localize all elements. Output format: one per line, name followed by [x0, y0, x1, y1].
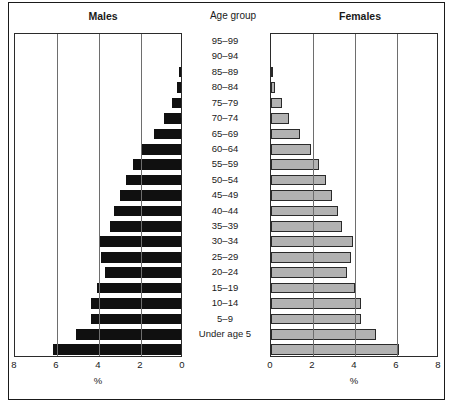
bar-row: [15, 96, 181, 111]
bar-females-5–9: [271, 329, 376, 340]
age-group-label: 95–99: [182, 33, 268, 48]
bar-row: [271, 142, 437, 157]
chart-titles: Males Age group Females: [8, 10, 445, 26]
bar-females-50–54: [271, 190, 332, 201]
age-group-label: 40–44: [182, 203, 268, 218]
bar-males-65–69: [141, 144, 181, 155]
bar-row: [15, 142, 181, 157]
bar-row: [271, 49, 437, 64]
bar-females-30–34: [271, 252, 351, 263]
bar-males-50–54: [120, 190, 181, 201]
age-group-label: 60–64: [182, 141, 268, 156]
bar-row: [271, 127, 437, 142]
age-group-label: 80–84: [182, 79, 268, 94]
age-group-label: 75–79: [182, 95, 268, 110]
population-pyramid-figure: Males Age group Females 95–9990–9485–898…: [0, 0, 452, 410]
axis-tick-0: 0: [267, 359, 272, 370]
bar-row: [271, 111, 437, 126]
bar-females-70–74: [271, 129, 300, 140]
bar-row: [15, 65, 181, 80]
bar-males-90–94: [179, 67, 181, 78]
bar-row: [15, 49, 181, 64]
gridline-4: [355, 34, 356, 356]
bar-females-40–44: [271, 221, 342, 232]
age-group-label: 35–39: [182, 218, 268, 233]
males-x-axis: 86420: [14, 359, 182, 373]
bar-males-55–59: [126, 175, 181, 186]
females-axis-unit-label: %: [270, 375, 438, 386]
bar-row: [271, 219, 437, 234]
bar-row: [271, 281, 437, 296]
gridline-6: [57, 34, 58, 356]
bar-row: [271, 234, 437, 249]
bar-females-65–69: [271, 144, 311, 155]
axis-tick-8: 8: [11, 359, 16, 370]
bar-row: [271, 342, 437, 357]
bar-row: [271, 173, 437, 188]
bar-row: [15, 342, 181, 357]
bar-row: [271, 265, 437, 280]
bar-row: [271, 80, 437, 95]
bar-males-15–19: [91, 298, 181, 309]
bar-row: [15, 312, 181, 327]
age-group-label: 10–14: [182, 295, 268, 310]
bar-row: [15, 219, 181, 234]
bar-row: [15, 127, 181, 142]
bar-row: [15, 80, 181, 95]
age-group-label: 85–89: [182, 64, 268, 79]
age-group-label: 30–34: [182, 233, 268, 248]
bar-males-80–84: [172, 98, 181, 109]
males-bar-rows: [15, 34, 181, 356]
bar-females-85–89: [271, 82, 275, 93]
females-bar-rows: [271, 34, 437, 356]
bar-row: [15, 157, 181, 172]
bar-males-75–79: [164, 113, 181, 124]
bar-row: [15, 204, 181, 219]
bar-males-10–14: [91, 314, 181, 325]
age-group-label: 90–94: [182, 48, 268, 63]
bar-females-10–14: [271, 314, 361, 325]
age-group-label: 65–69: [182, 126, 268, 141]
gridline-6: [397, 34, 398, 356]
bar-row: [15, 111, 181, 126]
bar-females-15–19: [271, 298, 361, 309]
bar-row: [271, 188, 437, 203]
bar-row: [271, 96, 437, 111]
bar-females-Under age 5: [271, 344, 399, 355]
age-group-label: 70–74: [182, 110, 268, 125]
bar-row-spacer: [271, 34, 437, 49]
bar-males-25–29: [105, 267, 181, 278]
bar-row: [271, 250, 437, 265]
gridline-2: [141, 34, 142, 356]
bar-row: [15, 281, 181, 296]
females-x-axis: 02468: [270, 359, 438, 373]
bar-males-20–24: [97, 283, 181, 294]
age-group-label: 50–54: [182, 172, 268, 187]
bar-row: [15, 173, 181, 188]
bar-females-90–94: [271, 67, 273, 78]
bar-row: [15, 250, 181, 265]
bar-males-40–44: [110, 221, 181, 232]
axis-tick-4: 4: [95, 359, 100, 370]
bar-row: [271, 157, 437, 172]
age-group-label: 25–29: [182, 249, 268, 264]
bar-males-45–49: [114, 206, 181, 217]
bar-females-35–39: [271, 236, 353, 247]
bar-row: [15, 296, 181, 311]
bar-males-Under age 5: [53, 344, 181, 355]
age-group-label: Under age 5: [182, 326, 268, 341]
age-group-label: 45–49: [182, 187, 268, 202]
bar-row: [271, 327, 437, 342]
axis-tick-2: 2: [137, 359, 142, 370]
bar-row: [271, 296, 437, 311]
age-group-label: 20–24: [182, 264, 268, 279]
axis-tick-8: 8: [435, 359, 440, 370]
bar-row: [15, 327, 181, 342]
age-group-label: 15–19: [182, 280, 268, 295]
age-group-label-column: 95–9990–9485–8980–8475–7970–7465–6960–64…: [182, 33, 268, 357]
bar-row: [271, 204, 437, 219]
gridline-2: [313, 34, 314, 356]
gridline-4: [99, 34, 100, 356]
females-panel-title: Females: [274, 10, 446, 22]
bar-row-spacer: [15, 34, 181, 49]
